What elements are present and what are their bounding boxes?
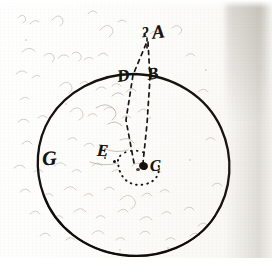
main-circle-ink-overlay [38,74,134,196]
label-G: G [41,148,56,169]
dashed-line-a-b-c [143,42,150,163]
label-A-flourish: ʔ [142,26,149,40]
page-gutter-shadow-top [226,0,266,120]
main-circle-ink-overlay-b [44,196,215,256]
dot-left-of-centre [113,160,116,163]
centre-ink-blot-spray [136,168,140,171]
label-C: C [149,158,161,175]
label-B: B [146,64,159,82]
dashed-line-a-d-c [126,44,146,163]
label-E: E [97,142,109,160]
page-top-fade [0,0,272,8]
label-A: A [151,21,166,41]
manuscript-page: ʔ A D B E C G [0,0,272,280]
page-bottom-margin [0,258,272,280]
label-D: D [116,66,131,85]
